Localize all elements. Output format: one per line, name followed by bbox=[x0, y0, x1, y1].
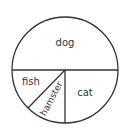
slice-label-fish: fish bbox=[22, 76, 40, 87]
slice-label-cat: cat bbox=[77, 87, 93, 98]
pie-chart: dog fish cat hamster bbox=[0, 0, 127, 135]
slice-label-dog: dog bbox=[56, 37, 75, 48]
